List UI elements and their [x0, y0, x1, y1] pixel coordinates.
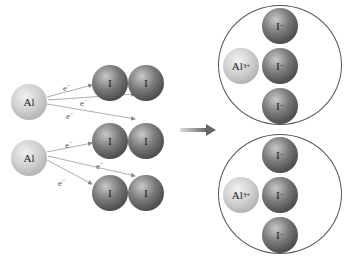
iodine-atom: I: [92, 175, 128, 211]
iodide-anion: I−: [262, 48, 298, 84]
electron-label: e−: [58, 177, 65, 188]
aluminum-cation: Al3+: [223, 177, 259, 213]
iodide-anion: I−: [262, 177, 298, 213]
reaction-arrow-shaft: [180, 128, 207, 132]
iodine-atom: I: [92, 65, 128, 101]
electron-label: e−: [65, 139, 72, 150]
iodide-anion: I−: [262, 8, 298, 44]
aluminum-iodide-formation-diagram: e− e− e− e− e− e− Al Al I I I I I I Al3+…: [0, 0, 347, 256]
aluminum-atom: Al: [11, 84, 47, 120]
right-arrow-icon: [206, 124, 216, 136]
iodide-anion: I−: [262, 137, 298, 173]
iodide-anion: I−: [262, 88, 298, 124]
aluminum-atom: Al: [11, 140, 47, 176]
aluminum-cation: Al3+: [223, 48, 259, 84]
electron-label: e−: [63, 82, 70, 93]
electron-label: e−: [80, 97, 87, 108]
electron-label: e−: [96, 160, 103, 171]
iodine-atom: I: [128, 123, 164, 159]
iodine-atom: I: [128, 175, 164, 211]
iodide-anion: I−: [262, 217, 298, 253]
iodine-atom: I: [92, 123, 128, 159]
electron-label: e−: [66, 110, 73, 121]
iodine-atom: I: [128, 65, 164, 101]
